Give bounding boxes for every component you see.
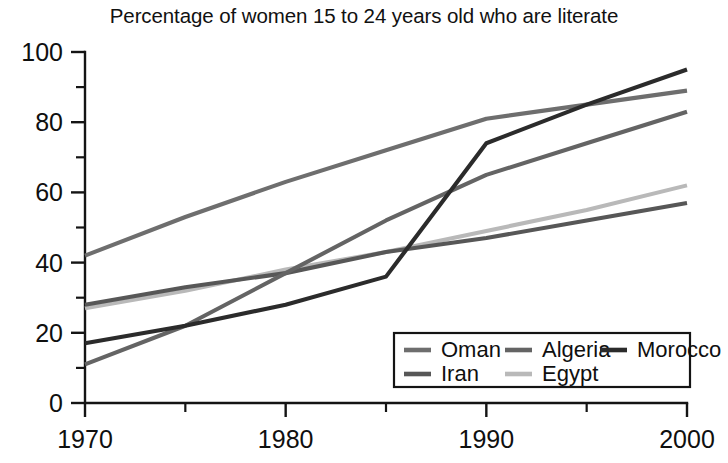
y-tick-label: 20 (35, 319, 63, 347)
chart-legend: OmanAlgeriaMoroccoIranEgypt (394, 333, 721, 387)
x-tick-label: 1990 (459, 425, 515, 453)
y-tick-label: 80 (35, 108, 63, 136)
data-series-group (85, 70, 687, 365)
y-tick-label: 40 (35, 249, 63, 277)
x-tick-label: 1970 (57, 425, 113, 453)
y-tick-label: 0 (49, 389, 63, 417)
x-tick-label: 2000 (659, 425, 715, 453)
line-chart-plot: 020406080100 1970198019902000 OmanAlgeri… (0, 0, 728, 463)
series-line-oman (85, 91, 687, 256)
legend-label-iran: Iran (441, 361, 479, 386)
x-axis-ticks: 1970198019902000 (57, 403, 715, 453)
series-line-iran (85, 203, 687, 305)
legend-label-oman: Oman (441, 337, 501, 362)
x-tick-label: 1980 (258, 425, 314, 453)
legend-label-morocco: Morocco (637, 337, 721, 362)
y-tick-label: 100 (21, 38, 63, 66)
chart-container: Percentage of women 15 to 24 years old w… (0, 0, 728, 463)
y-axis-ticks: 020406080100 (21, 38, 85, 417)
legend-label-egypt: Egypt (542, 361, 598, 386)
y-tick-label: 60 (35, 178, 63, 206)
